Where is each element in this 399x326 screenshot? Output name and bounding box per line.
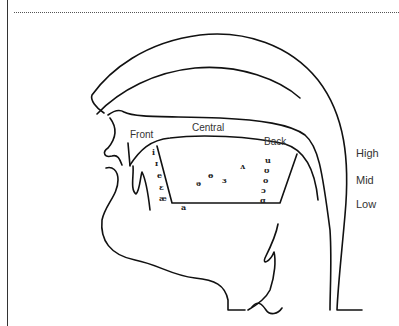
lower-jaw-outline: [102, 168, 245, 311]
vowel-o: o: [263, 175, 269, 185]
upper-lip-outline: [105, 118, 122, 165]
label-central: Central: [192, 122, 224, 133]
vowel-a: a: [181, 202, 186, 212]
label-low: Low: [356, 198, 376, 210]
vowel-open-mid-back: ɔ: [261, 185, 266, 195]
vowel-e: e: [157, 170, 162, 180]
epiglottis: [248, 224, 278, 310]
nasal-cavity-line: [97, 67, 300, 114]
vowel-barred-o: ɵ: [208, 170, 214, 180]
label-front: Front: [130, 129, 154, 140]
label-mid: Mid: [356, 174, 374, 186]
vowel-wedge: ʌ: [240, 161, 246, 171]
label-back: Back: [264, 136, 287, 147]
vowel-i: i: [152, 147, 155, 157]
vowel-open-mid-front: ɛ: [159, 182, 164, 192]
vowel-open-back: ɑ: [260, 195, 266, 205]
vowel-ae: æ: [159, 193, 167, 203]
vowel-near-close-front: ɪ: [155, 158, 158, 168]
lower-tooth: [133, 166, 150, 210]
vowel-open-mid-central: ɜ: [222, 175, 227, 185]
vowel-schwa: ə: [196, 178, 201, 188]
vowel-trapezoid: [157, 146, 297, 203]
vowel-near-close-back: ʊ: [264, 165, 270, 175]
vocal-tract-diagram: Front Central Back High Mid Low i ɪ e ɛ …: [0, 0, 399, 326]
palate-line: [108, 110, 331, 310]
label-high: High: [356, 147, 379, 159]
upper-tooth: [128, 143, 130, 166]
vowel-u: u: [265, 155, 271, 165]
